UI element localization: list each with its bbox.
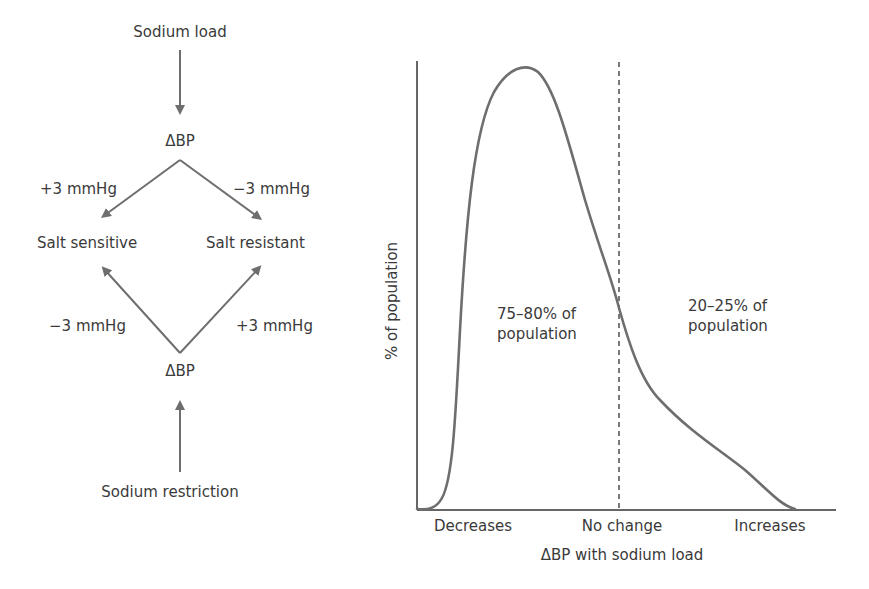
x-axis-label: ΔBP with sodium load [541, 546, 704, 564]
distribution-curve [417, 67, 795, 509]
delta-bp-top-label: ΔBP [165, 132, 195, 150]
sodium-restriction-label: Sodium restriction [101, 483, 238, 501]
sodium-load-label: Sodium load [133, 23, 226, 41]
bottom-left-change-label: −3 mmHg [49, 317, 126, 335]
y-axis-label: % of population [383, 242, 401, 360]
salt-resistant-label: Salt resistant [206, 234, 305, 252]
annotation-left-line1: 75–80% of [497, 305, 576, 323]
flow-diagram-arrows [105, 50, 258, 472]
x-tick-increases: Increases [734, 517, 805, 535]
x-tick-no-change: No change [582, 517, 662, 535]
bottom-right-change-label: +3 mmHg [236, 317, 313, 335]
salt-sensitive-label: Salt sensitive [37, 234, 137, 252]
annotation-right-line1: 20–25% of [688, 297, 767, 315]
chart-axes [417, 61, 836, 510]
arrow-to-salt-sensitive-bottom [105, 270, 180, 353]
top-right-change-label: −3 mmHg [233, 180, 310, 198]
delta-bp-bottom-label: ΔBP [165, 362, 195, 380]
annotation-left-line2: population [497, 325, 577, 343]
annotation-right-line2: population [688, 317, 768, 335]
top-left-change-label: +3 mmHg [40, 180, 117, 198]
arrow-to-salt-resistant-bottom [180, 269, 258, 353]
x-tick-decreases: Decreases [434, 517, 512, 535]
